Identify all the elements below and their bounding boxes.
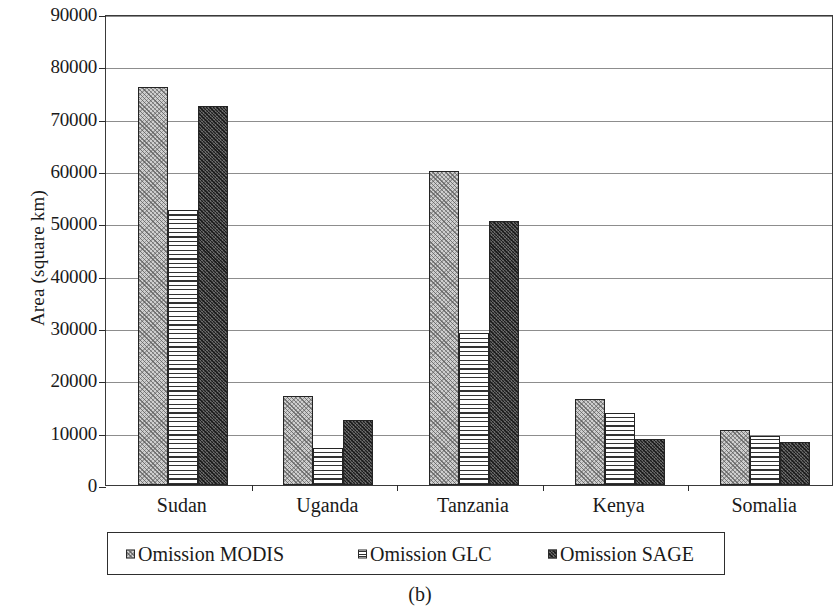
y-axis-tick — [99, 330, 106, 331]
legend-entry: Omission GLC — [358, 542, 492, 565]
x-axis-tick — [543, 485, 544, 491]
bar — [459, 333, 489, 485]
bar — [283, 396, 313, 485]
y-axis-tick — [99, 487, 106, 488]
x-axis-category-label: Sudan — [157, 494, 207, 517]
legend-entry: Omission SAGE — [548, 542, 694, 565]
y-axis-tick — [99, 278, 106, 279]
legend-label: Omission SAGE — [560, 542, 694, 565]
y-axis-tick-label: 90000 — [50, 4, 97, 26]
legend: Omission MODISOmission GLCOmission SAGE — [107, 532, 725, 575]
bar — [635, 439, 665, 485]
bar — [489, 221, 519, 485]
y-axis-tick-label: 50000 — [50, 213, 97, 235]
legend-label: Omission GLC — [370, 542, 492, 565]
bar — [575, 399, 605, 485]
bar — [343, 420, 373, 485]
y-axis-tick-label: 80000 — [50, 56, 97, 78]
x-axis-category-label: Tanzania — [437, 494, 509, 517]
bar — [605, 413, 635, 485]
figure-caption: (b) — [0, 583, 840, 606]
y-axis-tick-label: 10000 — [50, 423, 97, 445]
y-axis-tick — [99, 225, 106, 226]
x-axis-tick — [688, 485, 689, 491]
y-axis-tick-label: 70000 — [50, 109, 97, 131]
y-axis-tick-label: 30000 — [50, 318, 97, 340]
bar — [168, 210, 198, 485]
x-axis-tick — [252, 485, 253, 491]
y-axis-tick-label: 0 — [88, 475, 97, 497]
y-axis-tick — [99, 382, 106, 383]
y-axis-tick-label: 60000 — [50, 161, 97, 183]
legend-swatch-icon — [358, 549, 367, 558]
x-axis-category-label: Kenya — [592, 494, 644, 517]
figure-container: Area (square km) 01000020000300004000050… — [0, 0, 840, 613]
bar — [313, 448, 343, 485]
bar — [780, 442, 810, 485]
bar — [198, 106, 228, 485]
y-axis-title: Area (square km) — [27, 128, 49, 388]
y-axis-tick — [99, 435, 106, 436]
plot-area — [105, 15, 833, 486]
legend-swatch-icon — [126, 549, 135, 558]
legend-entry: Omission MODIS — [126, 542, 284, 565]
legend-swatch-icon — [548, 549, 557, 558]
y-axis-tick — [99, 16, 106, 17]
y-axis-tick — [99, 173, 106, 174]
y-axis-tick — [99, 121, 106, 122]
gridline — [106, 16, 832, 17]
y-axis-tick-label: 20000 — [50, 370, 97, 392]
x-axis-category-label: Uganda — [296, 494, 358, 517]
bar — [138, 87, 168, 485]
x-axis-tick — [397, 485, 398, 491]
bar — [720, 430, 750, 485]
x-axis-category-label: Somalia — [731, 494, 797, 517]
bar — [750, 436, 780, 485]
bar — [429, 171, 459, 485]
y-axis-tick — [99, 68, 106, 69]
y-axis-tick-label: 40000 — [50, 266, 97, 288]
legend-label: Omission MODIS — [138, 542, 284, 565]
gridline — [106, 68, 832, 69]
